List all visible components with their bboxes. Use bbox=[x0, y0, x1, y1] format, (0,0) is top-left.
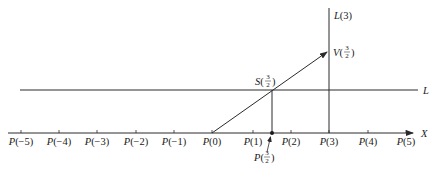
axis-tick-label: P(3) bbox=[319, 136, 339, 148]
axis-tick-label: P(1) bbox=[243, 136, 263, 148]
point-S: S( 3 2 ) bbox=[255, 73, 276, 133]
axis-tick-label: P(2) bbox=[281, 136, 301, 148]
point-P-three-halves-label: P( bbox=[253, 152, 264, 164]
axis-tick-label: P(0) bbox=[202, 136, 222, 148]
svg-text:2: 2 bbox=[265, 157, 269, 165]
axis-tick-label: P(−2) bbox=[123, 136, 149, 148]
svg-text:3: 3 bbox=[345, 44, 349, 52]
axis-tick-label: P(5) bbox=[396, 136, 416, 148]
svg-text:): ) bbox=[271, 152, 275, 164]
svg-text:2: 2 bbox=[345, 52, 349, 60]
axis-tick-label: P(−5) bbox=[8, 136, 34, 148]
svg-text:): ) bbox=[351, 47, 355, 59]
point-S-label: S( bbox=[255, 76, 264, 88]
axis-tick-label: P(−3) bbox=[84, 136, 110, 148]
line-L-label: L bbox=[422, 85, 429, 96]
x-axis-label: X bbox=[420, 128, 428, 139]
point-V-label: V( bbox=[333, 47, 343, 59]
line-L: L bbox=[20, 85, 429, 96]
line-L3-label: L(3) bbox=[333, 10, 353, 22]
svg-text:2: 2 bbox=[266, 81, 270, 89]
line-L3: L(3) bbox=[329, 8, 353, 133]
svg-text:): ) bbox=[272, 76, 276, 88]
axis-tick-label: P(−4) bbox=[46, 136, 72, 148]
number-line-diagram: X P(−5)P(−4)P(−3)P(−2)P(−1)P(0)P(1)P(2)P… bbox=[0, 0, 434, 169]
svg-text:3: 3 bbox=[265, 149, 269, 157]
axis-tick-label: P(−1) bbox=[161, 136, 187, 148]
svg-text:3: 3 bbox=[266, 73, 270, 81]
axis-tick-label: P(4) bbox=[358, 136, 378, 148]
vector-V: V( 3 2 ) bbox=[212, 44, 355, 133]
